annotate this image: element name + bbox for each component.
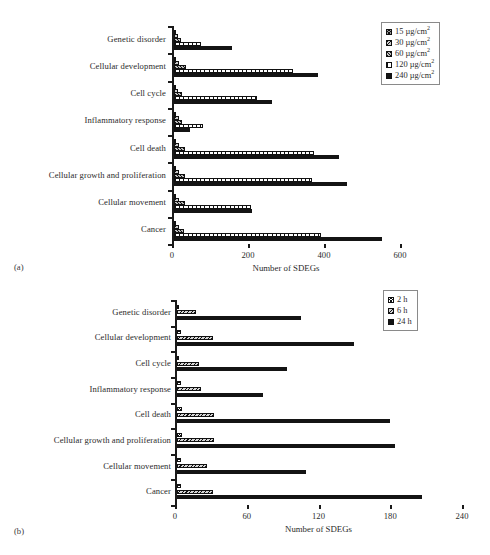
category-label: Genetic disorder <box>107 35 166 44</box>
bar-group <box>174 166 400 185</box>
bar <box>177 458 181 462</box>
x-tick-label: 180 <box>384 511 397 521</box>
bar <box>177 305 179 309</box>
category-label: Cellular growth and proliferation <box>49 171 166 180</box>
bar <box>177 444 395 448</box>
x-tick-label: 240 <box>456 511 469 521</box>
plot-area-b <box>175 300 462 505</box>
legend-swatch-icon <box>388 308 394 314</box>
category-label: Cellular growth and proliferation <box>54 436 171 445</box>
legend-swatch-icon <box>386 73 392 79</box>
legend-b: 2 h6 h24 h <box>383 290 418 331</box>
y-tick <box>168 108 172 110</box>
legend-label: 15 µg/cm2 <box>395 27 430 36</box>
x-tick-label: 400 <box>318 250 331 260</box>
bar <box>174 209 252 213</box>
legend-swatch-icon <box>388 297 394 303</box>
legend-label: 30 µg/cm2 <box>395 38 430 47</box>
x-tick <box>175 505 177 509</box>
bar <box>177 419 390 423</box>
y-tick <box>168 162 172 164</box>
x-tick <box>462 505 464 509</box>
x-axis-title: Number of SDEGs <box>253 263 320 273</box>
bar <box>177 336 213 340</box>
bar <box>174 155 339 159</box>
legend-label: 2 h <box>397 295 407 304</box>
bar <box>174 73 318 77</box>
bar-group <box>174 57 400 76</box>
x-tick-label: 0 <box>173 511 177 521</box>
x-tick <box>172 244 174 248</box>
y-tick <box>171 428 175 430</box>
legend-row: 60 µg/cm2 <box>386 48 434 59</box>
x-tick-label: 60 <box>242 511 251 521</box>
category-label: Cellular movement <box>103 462 171 471</box>
y-tick <box>171 351 175 353</box>
bar <box>177 407 182 411</box>
legend-row: 6 h <box>388 305 412 316</box>
panel-a: 15 µg/cm230 µg/cm260 µg/cm2120 µg/cm2240… <box>0 0 490 280</box>
y-tick <box>171 300 175 302</box>
bar-group <box>177 433 462 450</box>
category-label: Cellular movement <box>98 198 166 207</box>
legend-row: 24 h <box>388 316 412 327</box>
bar <box>177 362 199 366</box>
bar <box>177 316 301 320</box>
x-tick <box>248 244 250 248</box>
legend-row: 120 µg/cm2 <box>386 59 434 70</box>
panel-tag-a: (a) <box>14 262 24 272</box>
bar-group <box>177 305 462 322</box>
legend-swatch-icon <box>388 319 394 325</box>
plot-area-a <box>172 26 400 244</box>
bar-group <box>177 330 462 347</box>
x-tick <box>324 244 326 248</box>
legend-label: 6 h <box>397 306 407 315</box>
category-label: Cellular development <box>95 333 171 342</box>
legend-label: 120 µg/cm2 <box>395 60 434 69</box>
bar <box>177 342 354 346</box>
bar <box>177 387 201 391</box>
bar <box>177 367 287 371</box>
bar <box>177 484 181 488</box>
y-tick <box>171 377 175 379</box>
y-tick <box>168 26 172 28</box>
category-label: Cell death <box>130 144 166 153</box>
category-label: Cancer <box>146 487 171 496</box>
category-label: Cell death <box>135 410 171 419</box>
y-tick <box>171 479 175 481</box>
bar <box>177 330 181 334</box>
category-label: Genetic disorder <box>112 308 171 317</box>
bar <box>177 470 306 474</box>
y-tick <box>168 53 172 55</box>
bar <box>174 182 347 186</box>
y-tick <box>168 190 172 192</box>
x-tick-label: 600 <box>394 250 407 260</box>
x-tick <box>319 505 321 509</box>
bar <box>177 464 207 468</box>
legend-label: 24 h <box>397 317 412 326</box>
category-label: Cancer <box>141 225 166 234</box>
bar-group <box>174 30 400 49</box>
bar-group <box>174 194 400 213</box>
bar <box>177 490 213 494</box>
legend-row: 240 µg/cm2 <box>386 70 434 81</box>
legend-label: 240 µg/cm2 <box>395 71 434 80</box>
bar-group <box>177 356 462 373</box>
bar <box>174 100 272 104</box>
legend-row: 2 h <box>388 294 412 305</box>
legend-swatch-icon <box>386 51 392 57</box>
bar <box>177 433 182 437</box>
x-tick-label: 0 <box>170 250 174 260</box>
bar <box>177 356 179 360</box>
legend-label: 60 µg/cm2 <box>395 49 430 58</box>
figure-sdeg-bar-charts: 15 µg/cm230 µg/cm260 µg/cm2120 µg/cm2240… <box>0 0 490 555</box>
x-tick <box>247 505 249 509</box>
bar-group <box>174 112 400 131</box>
bar <box>177 495 422 499</box>
bar <box>177 438 214 442</box>
bar <box>177 413 214 417</box>
category-label: Cell cycle <box>130 89 166 98</box>
x-axis-title: Number of SDEGs <box>285 524 352 534</box>
bar <box>174 237 382 241</box>
category-label: Inflammatory response <box>84 116 166 125</box>
